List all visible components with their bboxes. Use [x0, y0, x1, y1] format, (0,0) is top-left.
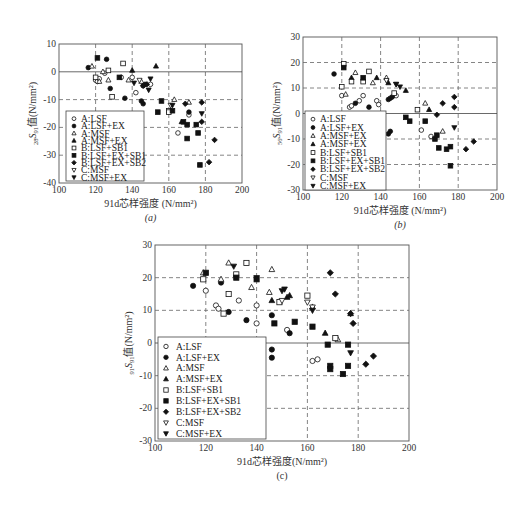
data-point: [310, 324, 315, 329]
x-tick-label: 200: [235, 185, 250, 195]
data-point: [164, 344, 168, 348]
data-point: [244, 260, 249, 265]
data-point: [272, 321, 277, 326]
data-point: [203, 288, 208, 293]
data-point: [164, 399, 168, 403]
chart-panel-b: 1001201401601802003020100-10-20-3091d芯样强…: [270, 32, 504, 231]
data-point: [419, 128, 424, 133]
legend: A:LSFA:LSF+EXA:MSFA:MSF+EXB:LSF+SB1B:LSF…: [158, 337, 266, 439]
legend-label: B:LSF+SB1: [176, 385, 223, 395]
data-point: [349, 79, 354, 84]
legend-label: B:LSF+EX+SB2: [176, 407, 241, 417]
data-point: [340, 371, 345, 376]
data-point: [287, 331, 292, 336]
data-point: [198, 163, 203, 168]
y-tick-label: 30: [143, 240, 153, 250]
legend-label: A:MSF+EX: [176, 374, 223, 384]
data-point: [367, 105, 372, 110]
x-tick-label: 140: [373, 192, 388, 202]
x-axis-label: 91d芯样强度 (N/mm²): [354, 204, 447, 217]
legend: A:LSFA:LSF+EXA:MSFA:MSF+EXB:LSF+SB1B:LSF…: [66, 111, 146, 183]
chart-panel-a: 100120140160180200100-10-20-30-4091d芯样强度…: [26, 39, 249, 224]
data-point: [254, 321, 259, 326]
data-point: [72, 146, 76, 150]
x-axis-label: 91d芯样强度(N/mm²): [237, 455, 327, 468]
data-point: [448, 163, 453, 168]
panel-label: (c): [276, 470, 287, 482]
data-point: [187, 110, 192, 115]
x-tick-label: 140: [249, 443, 264, 453]
data-point: [315, 357, 320, 362]
data-point: [234, 275, 239, 280]
legend-item: B:LSF+EX+SB1: [164, 396, 242, 406]
x-tick-label: 160: [412, 192, 427, 202]
data-point: [388, 129, 393, 134]
legend-label: C:MSF+EX: [320, 181, 366, 191]
data-point: [254, 303, 259, 308]
x-tick-label: 180: [451, 192, 466, 202]
data-point: [310, 358, 315, 363]
data-point: [194, 122, 199, 127]
y-tick-label: -30: [287, 185, 300, 195]
data-point: [325, 342, 330, 347]
panel-label: (b): [394, 219, 406, 231]
x-tick-label: 120: [88, 185, 103, 195]
data-point: [333, 336, 338, 341]
y-axis-label: 56S91值(N/mm²): [270, 82, 283, 145]
y-tick-label: 10: [143, 305, 153, 315]
data-point: [72, 117, 76, 121]
y-tick-label: -10: [139, 371, 152, 381]
y-tick-label: -10: [43, 95, 56, 105]
data-point: [203, 270, 208, 275]
y-tick-label: 0: [51, 67, 56, 77]
data-point: [328, 367, 333, 372]
data-point: [221, 311, 226, 316]
data-point: [376, 102, 381, 107]
legend-label: C:MSF+EX: [81, 173, 127, 183]
x-tick-label: 160: [300, 443, 315, 453]
y-axis-label: 28S91值(N/mm²): [26, 82, 39, 145]
x-tick-label: 180: [198, 185, 213, 195]
data-point: [345, 342, 350, 347]
panel-label: (a): [145, 212, 157, 224]
y-tick-label: -30: [139, 436, 152, 446]
data-point: [104, 57, 109, 62]
data-point: [110, 95, 115, 100]
x-tick-label: 120: [199, 443, 214, 453]
data-point: [164, 388, 168, 392]
data-point: [170, 108, 175, 113]
data-point: [95, 56, 100, 61]
data-point: [236, 298, 241, 303]
data-point: [134, 90, 139, 95]
chart-panel-c: 1001201401601802003020100-10-20-3091d芯样强…: [122, 240, 416, 482]
data-point: [448, 144, 453, 149]
data-point: [141, 101, 146, 106]
data-point: [361, 76, 366, 81]
y-tick-label: 10: [47, 39, 57, 49]
data-point: [191, 283, 196, 288]
x-tick-label: 180: [351, 443, 366, 453]
data-point: [269, 355, 274, 360]
legend-item: C:MSF+EX: [311, 181, 366, 191]
data-point: [269, 313, 274, 318]
x-tick-label: 160: [162, 185, 177, 195]
legend-label: B:LSF+EX+SB1: [176, 396, 241, 406]
data-point: [361, 93, 366, 98]
data-point: [407, 119, 412, 124]
figure-canvas: 100120140160180200100-10-20-30-4091d芯样强度…: [0, 0, 529, 514]
data-point: [244, 318, 249, 323]
legend-item: C:MSF+EX: [72, 173, 127, 183]
data-point: [196, 131, 201, 136]
data-point: [117, 75, 122, 80]
data-point: [311, 159, 315, 163]
data-point: [123, 96, 128, 101]
data-point: [340, 84, 345, 89]
x-tick-label: 140: [125, 185, 140, 195]
data-point: [216, 306, 221, 311]
data-point: [345, 363, 350, 368]
legend-item: B:LSF+EX+SB2: [163, 407, 241, 417]
y-tick-label: -20: [139, 403, 152, 413]
y-axis-label: 91S91值(N/mm²): [122, 311, 135, 374]
x-tick-label: 200: [402, 443, 417, 453]
data-point: [311, 117, 315, 121]
